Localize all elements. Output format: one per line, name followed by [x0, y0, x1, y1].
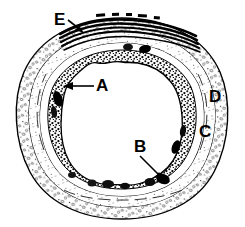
label-a: A: [96, 76, 108, 95]
label-d: D: [209, 87, 221, 106]
label-e: E: [54, 10, 65, 29]
label-c: C: [199, 122, 211, 141]
figure-container: A B C D E: [0, 0, 245, 227]
lumen: [65, 66, 177, 182]
label-b: B: [134, 137, 146, 156]
cross-section-illustration: A B C D E: [0, 0, 245, 227]
